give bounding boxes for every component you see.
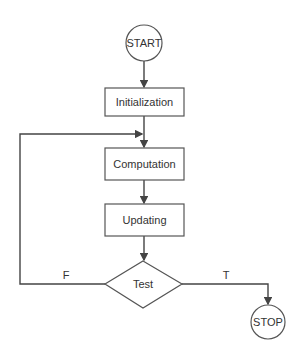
computation-label: Computation xyxy=(113,158,175,170)
computation-node: Computation xyxy=(105,148,184,180)
initialization-node: Initialization xyxy=(105,88,184,116)
initialization-label: Initialization xyxy=(116,96,173,108)
true-label: T xyxy=(223,269,230,281)
flowchart: START Initialization Computation Updatin… xyxy=(0,0,300,356)
false-label: F xyxy=(63,269,70,281)
test-label: Test xyxy=(133,278,153,290)
start-label: START xyxy=(126,37,161,49)
start-node: START xyxy=(126,25,162,61)
test-node: Test xyxy=(105,261,182,308)
updating-label: Updating xyxy=(122,214,166,226)
stop-label: STOP xyxy=(253,316,283,328)
edge-test-true-to-stop xyxy=(182,284,268,304)
updating-node: Updating xyxy=(105,204,184,236)
stop-node: STOP xyxy=(251,305,285,339)
